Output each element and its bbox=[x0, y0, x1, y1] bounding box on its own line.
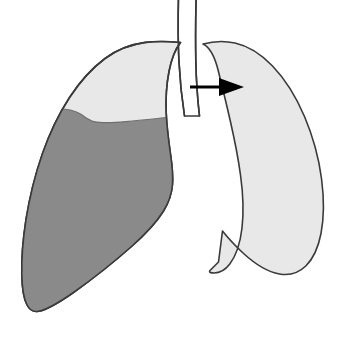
lung-diagram-canvas bbox=[0, 0, 352, 337]
lung-diagram-figure: Line drawing of two lungs. The viewer-le… bbox=[0, 0, 352, 337]
